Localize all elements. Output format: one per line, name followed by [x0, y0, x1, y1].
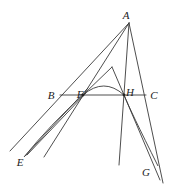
- label-F: F: [77, 89, 84, 100]
- label-A: A: [123, 10, 130, 21]
- label-G: G: [142, 167, 150, 178]
- line-A-C-extended: [129, 23, 163, 183]
- diagram-lines: [10, 23, 163, 183]
- diagram-curves: [24, 86, 158, 166]
- label-E: E: [17, 157, 24, 168]
- arc-F-H: [83, 86, 124, 95]
- label-B: B: [48, 90, 55, 101]
- line-E-F-2: [27, 93, 86, 155]
- line-F-T: [83, 67, 112, 95]
- label-H: H: [126, 87, 134, 98]
- geometry-diagram: [0, 0, 172, 191]
- curve-H-G: [124, 95, 158, 166]
- label-C: C: [150, 90, 157, 101]
- point-H: [123, 94, 126, 97]
